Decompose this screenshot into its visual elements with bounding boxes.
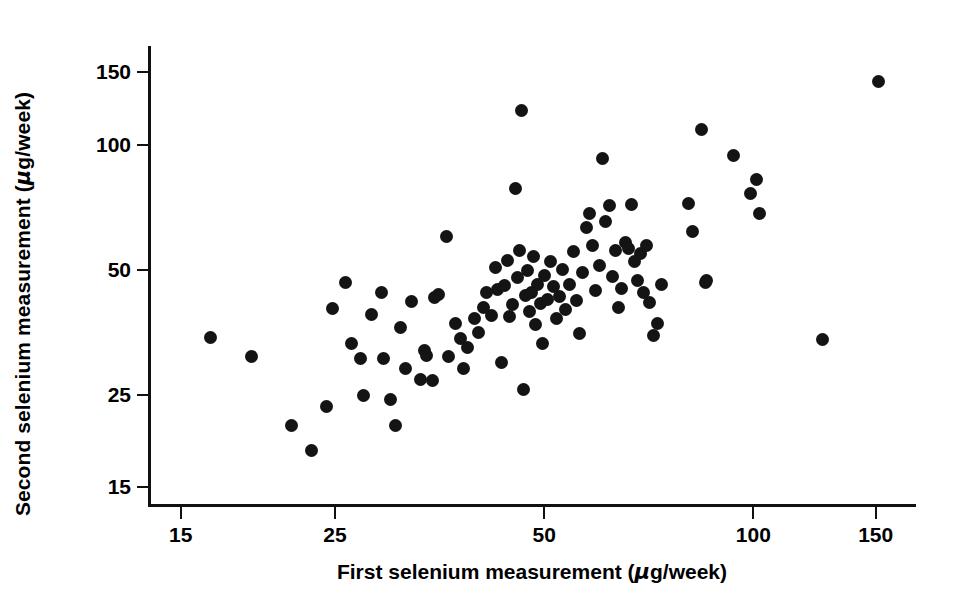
y-tick-25: 25 [137,394,149,396]
y-tick-15: 15 [137,486,149,488]
data-point [513,244,526,257]
data-point [567,245,580,258]
data-point [440,230,453,243]
data-point [384,393,397,406]
data-point [615,282,628,295]
data-point [640,239,653,252]
x-axis-label-text: First selenium measurement ( [337,560,635,583]
data-point [686,225,699,238]
data-point [573,327,586,340]
data-point [589,284,602,297]
data-point [593,259,606,272]
data-point [622,242,635,255]
data-point [583,207,596,220]
data-point [365,308,378,321]
y-axis-label-unit: g/week) [11,92,35,170]
data-point [744,187,757,200]
x-axis-line [148,504,916,507]
data-point [529,318,542,331]
x-tick-50: 50 [543,507,545,519]
y-tick-50: 50 [137,269,149,271]
x-tick-label-25: 25 [323,523,346,547]
data-point [498,279,511,292]
y-axis-label-text: Second selenium measurement ( [11,185,35,516]
data-point [599,215,612,228]
x-tick-15: 15 [180,507,182,519]
data-point [695,123,708,136]
data-point [495,356,508,369]
micro-symbol-icon: μ [11,170,35,186]
y-tick-label-100: 100 [96,133,131,157]
y-axis-label: Second selenium measurement (μg/week) [0,0,46,608]
y-tick-label-50: 50 [108,258,131,282]
data-point [509,182,522,195]
data-point [515,104,528,117]
data-point [468,312,481,325]
y-tick-100: 100 [137,144,149,146]
data-point [521,264,534,277]
data-point [536,337,549,350]
data-point [345,337,358,350]
data-point [651,317,664,330]
data-point [357,389,370,402]
data-point [457,362,470,375]
y-tick-label-150: 150 [96,60,131,84]
x-tick-label-100: 100 [736,523,771,547]
x-axis-label: First selenium measurement (μg/week) [148,560,916,584]
data-point [570,294,583,307]
data-point [753,207,766,220]
data-point [750,173,763,186]
data-point [506,298,519,311]
data-point [377,352,390,365]
data-point [596,152,609,165]
data-point [655,278,668,291]
data-point [647,329,660,342]
data-point [204,331,217,344]
data-point [612,301,625,314]
data-point [442,350,455,363]
plot-area: 152550100150 152550100150 [148,30,916,506]
data-point [420,349,433,362]
data-point [682,197,695,210]
x-tick-label-15: 15 [169,523,192,547]
data-point [563,278,576,291]
x-tick-label-50: 50 [532,523,555,547]
micro-symbol-icon: μ [635,560,650,584]
data-point [305,444,318,457]
data-point [399,362,412,375]
data-point [472,326,485,339]
data-point [389,419,402,432]
data-point [559,303,572,316]
data-point [527,250,540,263]
data-point [485,309,498,322]
data-point [501,254,514,267]
data-point [285,419,298,432]
data-point [727,149,740,162]
data-point [625,198,638,211]
data-point [449,317,462,330]
data-point [576,266,589,279]
data-point [816,333,829,346]
data-point [320,400,333,413]
x-axis-label-unit: g/week) [650,560,727,583]
data-point [556,263,569,276]
y-tick-150: 150 [137,71,149,73]
data-point [700,274,713,287]
data-point [432,288,445,301]
data-point [461,341,474,354]
x-tick-150: 150 [875,507,877,519]
data-point [872,75,885,88]
data-point [426,374,439,387]
data-point [553,290,566,303]
data-point [354,352,367,365]
data-point [339,276,352,289]
data-point [245,350,258,363]
data-point [503,310,516,323]
data-point [326,302,339,315]
data-point [643,296,656,309]
data-point [394,321,407,334]
y-tick-label-25: 25 [108,383,131,407]
y-axis-line [148,46,151,506]
data-point [586,239,599,252]
x-tick-25: 25 [334,507,336,519]
